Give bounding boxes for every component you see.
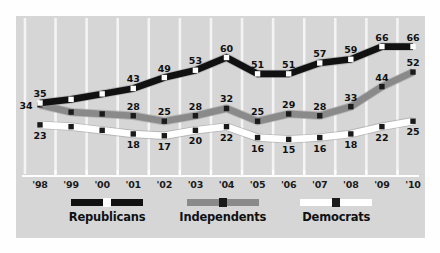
data-label-republicans-10: 66 xyxy=(402,32,424,43)
x-axis-label-08: '08 xyxy=(335,179,367,190)
data-label-independents-10: 52 xyxy=(402,57,424,68)
data-label-independents-04: 32 xyxy=(216,93,238,104)
data-point-marker xyxy=(348,131,353,136)
data-label-democrats-03: 20 xyxy=(184,135,206,146)
data-point-marker xyxy=(255,135,260,140)
data-point-marker xyxy=(317,135,322,140)
data-label-independents-05: 25 xyxy=(247,106,269,117)
data-point-marker xyxy=(286,111,291,116)
data-point-marker xyxy=(224,55,229,60)
data-point-marker xyxy=(379,84,384,89)
x-axis-label-10: '10 xyxy=(397,179,429,190)
legend-marker xyxy=(103,198,111,207)
data-label-independents-08: 33 xyxy=(340,92,362,103)
data-label-democrats-98: 23 xyxy=(29,130,51,141)
data-label-independents-03: 28 xyxy=(184,101,206,112)
legend-marker xyxy=(332,198,340,207)
data-label-democrats-07: 16 xyxy=(309,143,331,154)
data-point-marker xyxy=(348,57,353,62)
legend-marker xyxy=(219,198,227,207)
data-point-marker xyxy=(193,113,198,118)
data-point-marker xyxy=(224,124,229,129)
data-point-marker xyxy=(255,71,260,76)
legend-item-democrats[interactable]: Democrats xyxy=(300,198,372,224)
legend-label: Independents xyxy=(179,210,266,224)
data-label-democrats-04: 22 xyxy=(216,132,238,143)
data-point-marker xyxy=(68,124,73,129)
data-point-marker xyxy=(131,86,136,91)
x-axis-label-05: '05 xyxy=(242,179,274,190)
data-label-independents-06: 29 xyxy=(278,99,300,110)
chart-legend: RepublicansIndependentsDemocrats xyxy=(16,198,425,236)
data-point-marker xyxy=(224,106,229,111)
data-point-marker xyxy=(99,91,104,96)
data-point-marker xyxy=(162,133,167,138)
x-axis-label-00: '00 xyxy=(86,179,118,190)
x-axis-label-02: '02 xyxy=(148,179,180,190)
data-point-marker xyxy=(37,100,42,105)
data-label-independents-98: 34 xyxy=(15,100,37,111)
data-label-independents-02: 25 xyxy=(153,106,175,117)
x-axis-label-03: '03 xyxy=(179,179,211,190)
data-label-independents-07: 28 xyxy=(309,101,331,112)
data-point-marker xyxy=(317,60,322,65)
data-point-marker xyxy=(379,44,384,49)
data-point-marker xyxy=(162,75,167,80)
data-label-republicans-02: 49 xyxy=(153,63,175,74)
data-point-marker xyxy=(317,113,322,118)
data-point-marker xyxy=(193,68,198,73)
data-label-republicans-06: 51 xyxy=(278,59,300,70)
data-label-democrats-02: 17 xyxy=(153,141,175,152)
data-point-marker xyxy=(68,109,73,114)
data-label-republicans-98: 35 xyxy=(29,88,51,99)
data-label-republicans-08: 59 xyxy=(340,44,362,55)
chart-container: '98'99'00'01'02'03'04'05'06'07'08'09'10 … xyxy=(0,0,440,253)
data-point-marker xyxy=(348,104,353,109)
data-point-marker xyxy=(99,111,104,116)
legend-label: Republicans xyxy=(69,210,146,224)
data-point-marker xyxy=(131,113,136,118)
data-label-democrats-08: 18 xyxy=(340,139,362,150)
data-label-republicans-03: 53 xyxy=(184,55,206,66)
legend-item-independents[interactable]: Independents xyxy=(179,198,266,224)
legend-label: Democrats xyxy=(302,210,370,224)
data-point-marker xyxy=(286,137,291,142)
data-label-republicans-01: 43 xyxy=(122,73,144,84)
data-label-democrats-09: 22 xyxy=(371,132,393,143)
data-point-marker xyxy=(193,128,198,133)
data-point-marker xyxy=(131,131,136,136)
legend-swatch-democrats xyxy=(300,198,372,207)
data-label-republicans-05: 51 xyxy=(247,59,269,70)
x-axis-label-07: '07 xyxy=(304,179,336,190)
data-point-marker xyxy=(410,44,415,49)
legend-swatch-republicans xyxy=(71,198,143,207)
data-point-marker xyxy=(379,124,384,129)
data-label-independents-09: 44 xyxy=(371,72,393,83)
data-point-marker xyxy=(99,128,104,133)
x-axis-label-99: '99 xyxy=(55,179,87,190)
legend-item-republicans[interactable]: Republicans xyxy=(69,198,146,224)
data-point-marker xyxy=(255,119,260,124)
data-label-republicans-07: 57 xyxy=(309,48,331,59)
x-axis-label-04: '04 xyxy=(211,179,243,190)
legend-swatch-independents xyxy=(187,198,259,207)
data-point-marker xyxy=(286,71,291,76)
data-point-marker xyxy=(162,119,167,124)
data-label-independents-01: 28 xyxy=(122,101,144,112)
data-label-democrats-05: 16 xyxy=(247,143,269,154)
data-point-marker xyxy=(68,97,73,102)
data-label-democrats-10: 25 xyxy=(402,126,424,137)
data-point-marker xyxy=(410,69,415,74)
data-label-democrats-06: 15 xyxy=(278,144,300,155)
data-point-marker xyxy=(410,119,415,124)
x-axis-label-01: '01 xyxy=(117,179,149,190)
x-axis-label-98: '98 xyxy=(24,179,56,190)
data-point-marker xyxy=(37,122,42,127)
data-label-republicans-09: 66 xyxy=(371,32,393,43)
data-label-democrats-01: 18 xyxy=(122,139,144,150)
data-label-republicans-04: 60 xyxy=(216,43,238,54)
x-axis-label-09: '09 xyxy=(366,179,398,190)
x-axis-label-06: '06 xyxy=(273,179,305,190)
